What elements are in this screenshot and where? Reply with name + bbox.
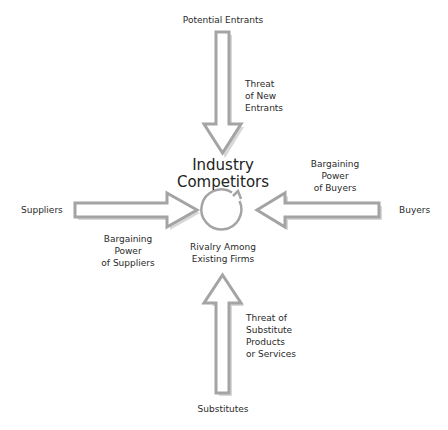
label-line: of Buyers [300, 182, 370, 194]
label-line: Bargaining [90, 233, 166, 245]
bargaining-power-buyers-label: Bargaining Power of Buyers [300, 158, 370, 194]
buyers-label: Buyers [399, 204, 430, 216]
threat-substitutes-arrow [204, 275, 241, 393]
label-line: Power [300, 170, 370, 182]
label-line: Rivalry Among [175, 241, 271, 253]
bargaining-power-suppliers-label: Bargaining Power of Suppliers [90, 233, 166, 269]
label-line: Substitute [246, 324, 296, 336]
title-line: Competitors [162, 174, 284, 191]
label-line: Existing Firms [175, 253, 271, 265]
threat-substitutes-label: Threat of Substitute Products or Service… [246, 312, 296, 360]
label-line: Power [90, 245, 166, 257]
label-line: Products [246, 336, 296, 348]
rivalry-circle [201, 189, 241, 229]
substitutes-label: Substitutes [170, 403, 276, 415]
porter-five-forces-diagram [0, 0, 448, 430]
rivalry-arrowhead [233, 191, 241, 199]
supplier-power-arrow [75, 193, 197, 227]
label-line: Entrants [245, 102, 283, 114]
label-line: or Services [246, 348, 296, 360]
threat-new-entrants-arrow [204, 32, 241, 153]
label-line: Threat [245, 78, 283, 90]
label-line: Bargaining [300, 158, 370, 170]
circular-arrow-icon [201, 189, 241, 229]
rivalry-label: Rivalry Among Existing Firms [175, 241, 271, 265]
label-line: of Suppliers [90, 257, 166, 269]
buyer-power-arrow [257, 193, 379, 227]
threat-new-entrants-label: Threat of New Entrants [245, 78, 283, 114]
title-line: Industry [162, 157, 284, 174]
label-line: of New [245, 90, 283, 102]
label-line: Threat of [246, 312, 296, 324]
potential-entrants-label: Potential Entrants [160, 14, 286, 26]
suppliers-label: Suppliers [21, 204, 63, 216]
industry-competitors-title: Industry Competitors [162, 157, 284, 191]
